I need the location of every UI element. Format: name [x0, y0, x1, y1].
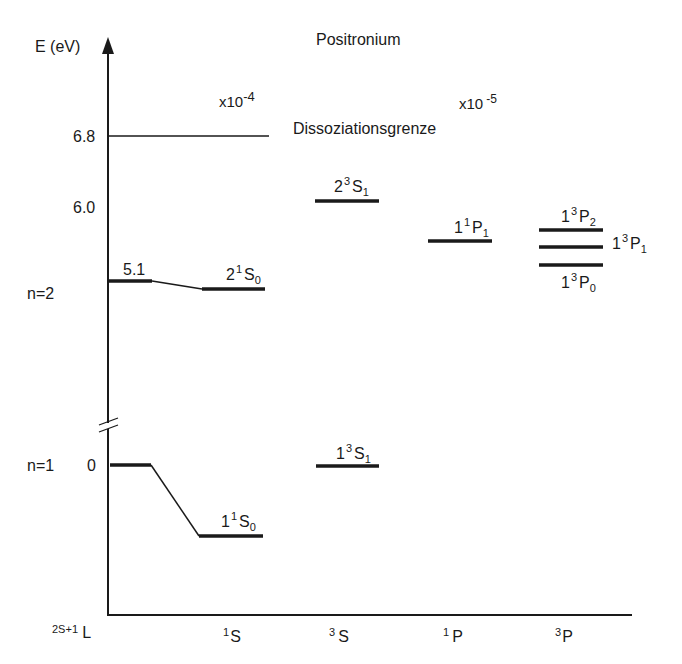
principal-n: 1: [336, 445, 345, 462]
multiplicity: 3: [571, 205, 577, 217]
x-tick-mult: 3: [555, 626, 561, 638]
j-value: 1: [483, 227, 489, 239]
term-symbol: P: [472, 219, 483, 236]
multiplicity: 3: [346, 442, 352, 454]
energy-level-diagram: [0, 0, 682, 664]
zero-label: 0: [87, 458, 96, 474]
principal-n: 1: [561, 208, 570, 225]
state-label-1-3S1: 13S1: [336, 443, 371, 465]
level-value-5-1: 5.1: [123, 262, 145, 278]
state-label-1-3P2: 13P2: [561, 206, 596, 228]
term-symbol: S: [354, 445, 365, 462]
x-axis-label-main: L: [82, 624, 91, 641]
x-tick-term: S: [230, 628, 241, 645]
j-value: 0: [590, 282, 596, 294]
term-symbol: S: [244, 266, 255, 283]
term-symbol: P: [579, 208, 590, 225]
y-tick-6-0: 6.0: [73, 200, 95, 216]
x-tick-term: P: [562, 628, 573, 645]
j-value: 1: [641, 243, 647, 255]
connector-n1: [151, 465, 199, 536]
multiplicity: 3: [622, 232, 628, 244]
state-label-2-1S0: 21S0: [226, 264, 261, 286]
j-value: 2: [590, 216, 596, 228]
shell-label-n2: n=2: [27, 286, 54, 302]
multiplicity: 3: [344, 175, 350, 187]
x-tick-3S: 3S: [329, 627, 349, 645]
shell-label-n1: n=1: [27, 458, 54, 474]
scale-factor-base: x10: [459, 95, 483, 112]
x-tick-1P: 1P: [443, 627, 463, 645]
connector-n2: [152, 281, 202, 289]
multiplicity: 1: [236, 263, 242, 275]
principal-n: 2: [226, 266, 235, 283]
j-value: 1: [365, 453, 371, 465]
scale-factor-exp: -5: [486, 92, 497, 106]
j-value: 1: [363, 186, 369, 198]
j-value: 0: [250, 521, 256, 533]
x-tick-mult: 3: [329, 626, 335, 638]
term-symbol: P: [579, 274, 590, 291]
y-axis-label: E (eV): [35, 39, 80, 55]
x-tick-mult: 1: [443, 626, 449, 638]
multiplicity: 1: [464, 216, 470, 228]
x-tick-mult: 1: [223, 626, 229, 638]
state-label-1-3P0: 13P0: [561, 272, 596, 294]
x-axis-label: 2S+1 L: [52, 624, 91, 641]
x-tick-3P: 3P: [555, 627, 573, 645]
scale-factor-1: x10-4: [219, 90, 255, 109]
scale-factor-2: x10-5: [459, 93, 497, 111]
x-tick-1S: 1S: [223, 627, 241, 645]
diagram-title: Positronium: [316, 32, 400, 48]
principal-n: 2: [334, 178, 343, 195]
dissociation-label: Dissoziationsgrenze: [293, 121, 436, 137]
term-symbol: P: [630, 235, 641, 252]
x-tick-term: S: [338, 628, 349, 645]
x-axis-label-prefix: 2S+1: [52, 623, 78, 635]
principal-n: 1: [612, 235, 621, 252]
x-tick-term: P: [452, 628, 463, 645]
scale-factor-base: x10: [219, 93, 243, 110]
state-label-1-1P1: 11P1: [454, 217, 489, 239]
state-label-1-3P1: 13P1: [612, 233, 647, 255]
principal-n: 1: [454, 219, 463, 236]
y-axis-arrow-icon: [102, 37, 114, 54]
y-tick-6-8: 6.8: [73, 129, 95, 145]
j-value: 0: [255, 274, 261, 286]
principal-n: 1: [561, 274, 570, 291]
term-symbol: S: [352, 178, 363, 195]
state-label-2-3S1: 23S1: [334, 176, 369, 198]
multiplicity: 1: [231, 510, 237, 522]
principal-n: 1: [221, 513, 230, 530]
state-label-1-1S0: 11S0: [221, 511, 256, 533]
term-symbol: S: [239, 513, 250, 530]
multiplicity: 3: [571, 271, 577, 283]
scale-factor-exp: -4: [243, 89, 255, 104]
